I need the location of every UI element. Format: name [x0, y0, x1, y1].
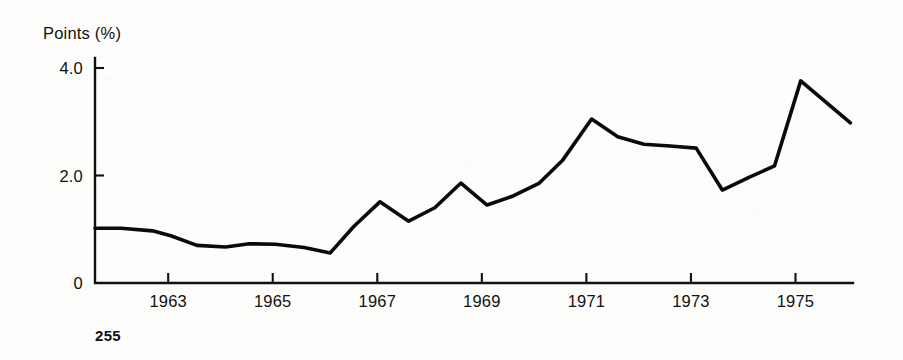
- y-tick-label: 2.0: [59, 167, 83, 185]
- line-chart-figure: Points (%) 02.04.0 196319651967196919711…: [0, 0, 903, 360]
- x-tick-label: 1971: [568, 292, 606, 310]
- x-tick-label: 1967: [359, 292, 397, 310]
- y-axis-title: Points (%): [43, 24, 121, 42]
- x-tick-label: 1963: [149, 292, 187, 310]
- y-tick-label: 0: [74, 274, 83, 292]
- x-tick-label: 1969: [463, 292, 501, 310]
- y-tick-label: 4.0: [59, 59, 83, 77]
- x-tick-label: 1965: [254, 292, 292, 310]
- x-tick-label: 1975: [777, 292, 815, 310]
- x-axis-ticks: 1963196519671969197119731975: [149, 273, 814, 310]
- chart-canvas: Points (%) 02.04.0 196319651967196919711…: [0, 0, 903, 360]
- data-series-line: [95, 81, 850, 253]
- chart-axes: [95, 58, 853, 283]
- x-tick-label: 1973: [672, 292, 710, 310]
- document-page: Points (%) 02.04.0 196319651967196919711…: [0, 0, 903, 360]
- y-axis-ticks: 02.04.0: [59, 59, 104, 292]
- page-number: 255: [95, 327, 121, 344]
